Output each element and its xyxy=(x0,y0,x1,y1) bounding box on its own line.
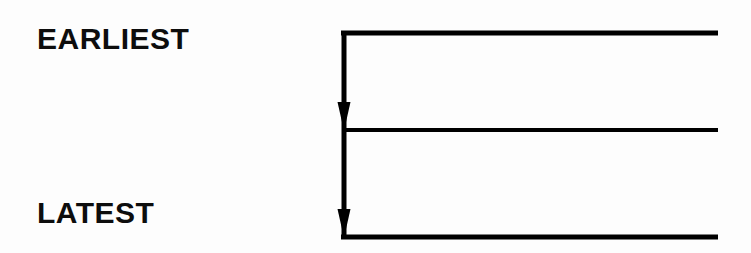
arrowhead-lower-icon xyxy=(338,209,351,238)
timeline-diagram: EARLIEST LATEST xyxy=(0,0,751,253)
arrowhead-upper-icon xyxy=(338,102,351,131)
timeline-graphic xyxy=(0,0,751,253)
